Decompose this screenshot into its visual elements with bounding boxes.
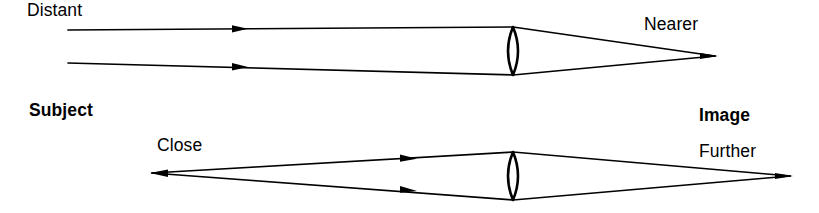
ray-incoming-upper-distant: [68, 27, 513, 30]
focus-point-further: [775, 173, 793, 179]
lens-focus-diagram: Distant Nearer Subject Image Close Furth…: [0, 0, 819, 213]
lens-distant: [508, 27, 518, 75]
label-nearer: Nearer: [644, 16, 698, 34]
arrowhead-upper-distant: [232, 25, 248, 32]
panel-close-subject: [150, 152, 793, 200]
label-image: Image: [699, 107, 750, 125]
focus-point-nearer: [700, 53, 718, 59]
ray-converging-lower-close: [513, 176, 790, 200]
label-close: Close: [157, 137, 202, 155]
ray-incoming-lower-close: [152, 173, 513, 200]
arrowhead-lower-distant: [232, 63, 248, 71]
label-subject: Subject: [29, 102, 93, 120]
lens-close: [508, 152, 518, 200]
source-point-close: [150, 170, 168, 178]
panel-distant-subject: [68, 25, 718, 75]
ray-converging-lower-distant: [513, 56, 715, 75]
ray-incoming-lower-distant: [68, 63, 513, 75]
label-distant: Distant: [27, 2, 82, 20]
label-further: Further: [699, 143, 756, 161]
ray-incoming-upper-close: [152, 152, 513, 173]
